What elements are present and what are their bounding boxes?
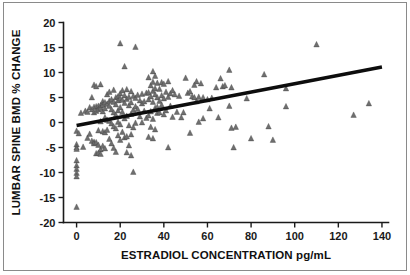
x-tick-label: 80 [245, 230, 257, 242]
data-point [124, 86, 129, 92]
data-point [229, 84, 234, 90]
data-point [148, 124, 153, 130]
data-point [227, 103, 232, 109]
x-tick-label: 60 [201, 230, 213, 242]
data-point [183, 75, 188, 81]
data-point [157, 86, 162, 92]
data-point [216, 114, 221, 120]
data-point [196, 119, 201, 125]
data-point [96, 127, 101, 133]
y-tick-label: 0 [49, 117, 55, 129]
data-point [231, 144, 236, 150]
data-point [266, 123, 271, 129]
y-tick-label: -5 [46, 142, 56, 154]
data-point [179, 114, 184, 120]
regression-line [77, 67, 382, 126]
y-tick-label: 5 [49, 92, 55, 104]
data-point [200, 115, 205, 121]
data-point [111, 87, 116, 93]
data-point [187, 130, 192, 136]
y-tick-label: 20 [43, 17, 55, 29]
data-point [133, 120, 138, 126]
data-point [124, 149, 129, 155]
data-point [131, 169, 136, 175]
data-point [128, 131, 133, 137]
data-point [126, 122, 131, 128]
data-point [146, 74, 151, 80]
axes [59, 23, 389, 228]
data-point [196, 94, 201, 100]
x-tick-label: 0 [74, 230, 80, 242]
data-point [80, 144, 85, 150]
data-point [150, 116, 155, 122]
y-tick-label: -10 [40, 167, 56, 179]
x-tick-label: 140 [373, 230, 391, 242]
data-point [133, 44, 138, 50]
data-point [283, 103, 288, 109]
data-point [150, 135, 155, 141]
data-point [200, 94, 205, 100]
data-point [351, 112, 356, 118]
data-point [248, 135, 253, 141]
data-point [126, 142, 131, 148]
data-point [117, 40, 122, 46]
data-point [233, 124, 238, 130]
y-tick-label: -15 [40, 192, 56, 204]
x-tick-label: 100 [286, 230, 304, 242]
y-tick-label: 15 [43, 42, 55, 54]
data-point [176, 93, 181, 99]
data-point [165, 144, 170, 150]
data-point [146, 134, 151, 140]
data-point [314, 41, 319, 47]
data-point [218, 75, 223, 81]
data-point [366, 100, 371, 106]
x-tick-label: 20 [114, 230, 126, 242]
y-tick-label: -20 [40, 217, 56, 229]
data-point [98, 81, 103, 87]
data-point [163, 89, 168, 95]
axis-labels: -20-15-10-505101520020406080100120140EST… [10, 17, 391, 261]
data-point [207, 105, 212, 111]
data-point [213, 84, 218, 90]
data-point [87, 131, 92, 137]
data-point [89, 94, 94, 100]
trendline [77, 67, 382, 126]
data-point [244, 95, 249, 101]
data-point [181, 109, 186, 115]
data-point [170, 114, 175, 120]
data-point [74, 204, 79, 210]
data-point [227, 67, 232, 73]
y-tick-label: 10 [43, 67, 55, 79]
y-axis-title: LUMBAR SPINE BMD % CHANGE [10, 29, 22, 215]
data-points [74, 40, 372, 209]
x-tick-label: 40 [158, 230, 170, 242]
scatter-plot: -20-15-10-505101520020406080100120140EST… [0, 0, 410, 275]
data-point [128, 152, 133, 158]
data-point [120, 129, 125, 135]
data-point [261, 71, 266, 77]
data-point [270, 137, 275, 143]
x-tick-label: 120 [329, 230, 347, 242]
figure-container: -20-15-10-505101520020406080100120140EST… [0, 0, 410, 275]
x-axis-title: ESTRADIOL CONCENTRATION pg/mL [121, 249, 331, 261]
data-point [165, 78, 170, 84]
data-point [174, 109, 179, 115]
data-point [194, 78, 199, 84]
data-point [122, 63, 127, 69]
